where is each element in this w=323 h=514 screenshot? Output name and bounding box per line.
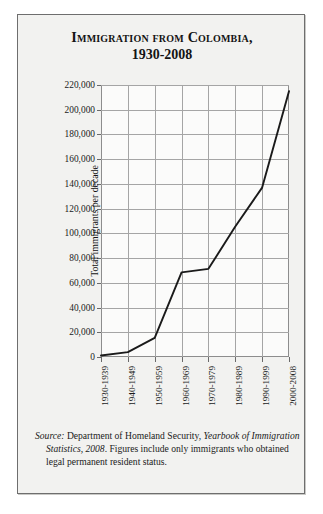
source-note: Source: Department of Homeland Security,… bbox=[35, 429, 302, 469]
chart-title-line-2: 1930-2008 bbox=[18, 46, 306, 63]
source-text-part-1: Department of Homeland Security, bbox=[64, 430, 203, 441]
y-axis-title: Total immigrants per decade bbox=[89, 165, 100, 277]
x-axis-tick-label: 1990-1999 bbox=[261, 366, 271, 406]
x-axis-tick-label: 1960-1969 bbox=[181, 366, 191, 406]
figure-panel: Immigration from Colombia, 1930-2008 020… bbox=[17, 14, 305, 494]
x-axis-tick-mark bbox=[182, 357, 183, 362]
y-axis-tick-label: 200,000 bbox=[65, 105, 95, 115]
y-axis-tick-label: 20,000 bbox=[69, 327, 95, 337]
x-axis-tick-mark bbox=[289, 357, 290, 362]
x-axis-tick-label: 1980-1989 bbox=[234, 366, 244, 406]
y-axis-tick-label: 180,000 bbox=[65, 129, 95, 139]
x-axis-tick-mark bbox=[155, 357, 156, 362]
x-axis-tick-label: 1940-1949 bbox=[127, 366, 137, 406]
data-series-line bbox=[101, 85, 289, 357]
x-axis-tick-label: 1970-1979 bbox=[207, 366, 217, 406]
chart-title: Immigration from Colombia, 1930-2008 bbox=[18, 29, 306, 63]
y-axis-tick-label: 160,000 bbox=[65, 154, 95, 164]
plot-area: 020,00040,00060,00080,000100,000120,0001… bbox=[101, 85, 289, 357]
x-axis-tick-mark bbox=[128, 357, 129, 362]
x-axis-tick-label: 1950-1959 bbox=[154, 366, 164, 406]
source-label: Source: bbox=[35, 430, 64, 441]
y-axis-tick-label: 220,000 bbox=[65, 80, 95, 90]
series-polyline bbox=[101, 91, 289, 355]
x-axis-tick-mark bbox=[262, 357, 263, 362]
y-axis-tick-label: 40,000 bbox=[69, 303, 95, 313]
y-axis-tick-label: 60,000 bbox=[69, 278, 95, 288]
x-axis-tick-mark bbox=[101, 357, 102, 362]
x-axis-tick-label: 2000-2008 bbox=[288, 366, 298, 406]
x-axis-tick-label: 1930-1939 bbox=[100, 366, 110, 406]
x-axis-tick-mark bbox=[235, 357, 236, 362]
y-axis-tick-label: 0 bbox=[90, 352, 95, 362]
chart-title-line-1: Immigration from Colombia, bbox=[18, 29, 306, 46]
x-axis-tick-mark bbox=[208, 357, 209, 362]
